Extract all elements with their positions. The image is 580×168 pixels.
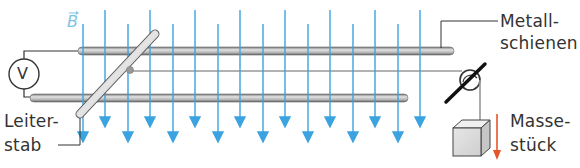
mass-block xyxy=(453,120,490,156)
voltmeter-label: V xyxy=(17,64,28,84)
rod-leader-line xyxy=(58,118,80,145)
gravity-arrow-icon xyxy=(493,114,501,160)
mass-label-line1: Masse- xyxy=(510,111,571,131)
magnetic-field-lines xyxy=(78,10,425,142)
rod-label-line1: Leiter- xyxy=(4,111,59,131)
pulley-icon xyxy=(446,64,485,102)
string-attachment xyxy=(127,67,134,74)
rails-leader-line xyxy=(441,21,498,48)
rod-label-line2: stab xyxy=(4,135,42,155)
mass-label-line2: stück xyxy=(510,135,557,155)
field-symbol-label: B xyxy=(67,12,78,31)
rails-label-line1: Metall- xyxy=(500,11,559,31)
induction-diagram xyxy=(0,0,580,168)
rails-label-line2: schienen xyxy=(500,33,578,53)
